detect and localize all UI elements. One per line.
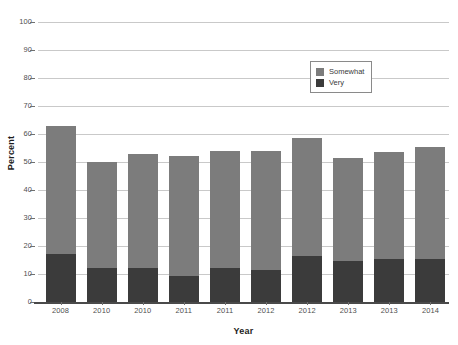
- bar-segment-very: [169, 276, 199, 302]
- y-tick-label: 0: [6, 298, 32, 306]
- x-tick-label: 2010: [121, 306, 165, 315]
- x-axis-title: Year: [38, 326, 449, 336]
- x-tick-label: 2011: [203, 306, 247, 315]
- bar-segment-somewhat: [87, 162, 117, 268]
- bar-2010: [128, 154, 158, 302]
- x-tick-mark: [102, 302, 103, 305]
- x-tick-mark: [143, 302, 144, 305]
- bar-2011: [210, 151, 240, 302]
- x-tick-mark: [430, 302, 431, 305]
- chart-legend: Somewhat Very: [310, 61, 372, 93]
- y-tick-mark: [30, 78, 35, 79]
- y-tick-mark: [30, 274, 35, 275]
- bar-segment-somewhat: [415, 147, 445, 260]
- bars-layer: [38, 22, 449, 302]
- legend-label-very: Very: [329, 78, 344, 87]
- bar-segment-very: [210, 268, 240, 302]
- x-tick-mark: [307, 302, 308, 305]
- y-tick-mark: [30, 50, 35, 51]
- legend-item-somewhat: Somewhat: [316, 66, 364, 77]
- bar-2011: [169, 156, 199, 302]
- y-tick-mark: [30, 22, 35, 23]
- bar-2013: [333, 158, 363, 302]
- legend-label-somewhat: Somewhat: [329, 67, 364, 76]
- bar-2012: [251, 151, 281, 302]
- bar-2014: [415, 147, 445, 302]
- bar-segment-somewhat: [210, 151, 240, 268]
- bar-segment-somewhat: [251, 151, 281, 271]
- bar-segment-somewhat: [128, 154, 158, 269]
- legend-swatch-very-icon: [316, 79, 324, 87]
- y-tick-label: 10: [6, 270, 32, 278]
- x-tick-label: 2014: [408, 306, 452, 315]
- x-tick-label: 2011: [162, 306, 206, 315]
- y-tick-mark: [30, 134, 35, 135]
- x-tick-label: 2010: [80, 306, 124, 315]
- bar-segment-very: [46, 254, 76, 302]
- bar-segment-somewhat: [374, 152, 404, 259]
- y-tick-label: 80: [6, 74, 32, 82]
- bar-segment-very: [415, 259, 445, 302]
- bar-segment-somewhat: [333, 158, 363, 261]
- y-tick-mark: [30, 190, 35, 191]
- bar-segment-very: [251, 270, 281, 302]
- x-tick-label: 2013: [367, 306, 411, 315]
- y-tick-label: 30: [6, 214, 32, 222]
- bar-2012: [292, 138, 322, 302]
- bar-segment-very: [87, 268, 117, 302]
- x-tick-mark: [61, 302, 62, 305]
- legend-item-very: Very: [316, 77, 364, 88]
- x-tick-mark: [225, 302, 226, 305]
- x-tick-label: 2013: [326, 306, 370, 315]
- y-tick-label: 20: [6, 242, 32, 250]
- bar-2013: [374, 152, 404, 302]
- bar-segment-very: [292, 256, 322, 302]
- bar-segment-somewhat: [292, 138, 322, 256]
- stacked-bar-chart: 0102030405060708090100 Percent 200820102…: [0, 0, 458, 345]
- y-axis-ticks: 0102030405060708090100: [0, 22, 32, 302]
- bar-segment-very: [333, 261, 363, 302]
- bar-segment-somewhat: [169, 156, 199, 276]
- y-tick-label: 90: [6, 46, 32, 54]
- y-axis-title: Percent: [6, 118, 16, 188]
- y-tick-mark: [30, 246, 35, 247]
- y-tick-label: 100: [6, 18, 32, 26]
- x-tick-mark: [389, 302, 390, 305]
- x-tick-label: 2012: [244, 306, 288, 315]
- y-tick-label: 70: [6, 102, 32, 110]
- bar-2008: [46, 126, 76, 302]
- x-tick-label: 2012: [285, 306, 329, 315]
- legend-swatch-somewhat-icon: [316, 68, 324, 76]
- bar-segment-very: [374, 259, 404, 302]
- bar-segment-somewhat: [46, 126, 76, 255]
- bar-2010: [87, 162, 117, 302]
- y-tick-mark: [30, 218, 35, 219]
- bar-segment-very: [128, 268, 158, 302]
- x-tick-mark: [184, 302, 185, 305]
- x-tick-mark: [348, 302, 349, 305]
- y-tick-mark: [30, 106, 35, 107]
- x-axis-line: [34, 302, 449, 304]
- y-tick-mark: [30, 162, 35, 163]
- x-tick-mark: [266, 302, 267, 305]
- x-tick-label: 2008: [39, 306, 83, 315]
